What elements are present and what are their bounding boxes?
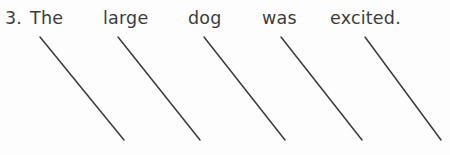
answer-line-3 [204,37,285,140]
answer-line-1 [40,37,124,140]
answer-line-2 [118,37,200,140]
answer-line-4 [281,37,362,140]
worksheet-exercise-item: 3. The large dog was excited. [0,0,450,155]
answer-lines-group [0,0,450,155]
answer-line-5 [365,37,441,140]
